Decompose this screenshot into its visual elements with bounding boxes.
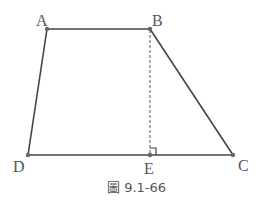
label-b: B	[152, 13, 163, 29]
label-c: C	[238, 158, 249, 174]
segment-da	[28, 29, 47, 155]
point-d	[26, 153, 30, 157]
label-e: E	[144, 161, 154, 177]
point-c	[231, 153, 235, 157]
figure-caption: 圖 9.1-66	[107, 181, 166, 194]
label-d: D	[13, 159, 25, 175]
segment-bc	[150, 29, 233, 155]
trapezoid-diagram	[0, 0, 262, 206]
label-a: A	[36, 13, 48, 29]
point-e	[148, 153, 152, 157]
